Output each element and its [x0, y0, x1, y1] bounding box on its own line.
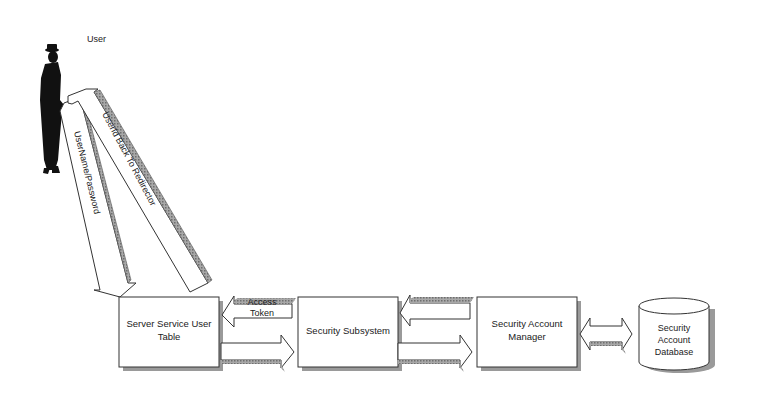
svg-text:Account: Account [658, 335, 691, 345]
table-to-subsystem-arrow [221, 335, 294, 372]
svg-text:Table: Table [158, 331, 181, 342]
redirect-label: UserId Back To Redirector [100, 110, 158, 207]
svg-text:Access: Access [247, 297, 277, 307]
security-architecture-diagram: User UserName/Password UserId Back To Re… [0, 0, 759, 393]
user-label: User [87, 34, 106, 44]
svg-text:Manager: Manager [508, 331, 546, 342]
node-account-manager: Security Account Manager [477, 297, 581, 371]
manager-database-arrow [580, 318, 632, 354]
svg-text:Database: Database [655, 347, 694, 357]
svg-text:Token: Token [250, 308, 274, 318]
svg-text:Security Account: Security Account [492, 318, 563, 329]
access-token-arrow: Access Token [222, 296, 296, 327]
svg-text:Server Service User: Server Service User [127, 318, 212, 329]
svg-text:Security: Security [658, 323, 691, 333]
svg-text:Security Subsystem: Security Subsystem [306, 325, 390, 336]
node-database: Security Account Database [639, 298, 715, 373]
manager-to-subsystem-arrow [400, 295, 474, 326]
node-subsystem: Security Subsystem [298, 297, 402, 371]
node-user-table: Server Service User Table [119, 297, 223, 371]
subsystem-to-manager-arrow [398, 335, 472, 372]
database-icon [639, 298, 709, 314]
